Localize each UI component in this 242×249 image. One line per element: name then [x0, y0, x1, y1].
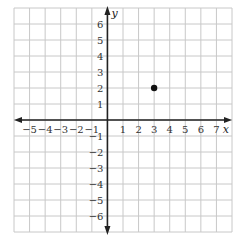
y-tick-label: −1 — [89, 131, 104, 142]
data-points — [151, 85, 157, 91]
tick-labels: −5−4−3−2−11234567654321−1−2−3−4−5−6xy — [22, 7, 229, 222]
y-tick-label: −6 — [89, 211, 104, 222]
x-tick-label: −4 — [38, 124, 53, 135]
y-tick-label: 3 — [97, 67, 103, 78]
x-tick-label: −2 — [69, 124, 84, 135]
x-tick-label: 2 — [135, 124, 141, 135]
y-tick-label: −4 — [89, 179, 104, 190]
x-tick-label: −3 — [53, 124, 68, 135]
y-tick-label: −2 — [89, 147, 104, 158]
x-axis-label: x — [223, 123, 230, 136]
y-tick-label: 4 — [97, 51, 103, 62]
y-tick-label: 2 — [97, 83, 103, 94]
y-tick-label: 1 — [97, 99, 103, 110]
y-axis-label: y — [110, 7, 118, 20]
x-axis-arrow-left-icon — [14, 117, 22, 123]
x-tick-label: −5 — [22, 124, 37, 135]
x-tick-label: 3 — [151, 124, 157, 135]
x-tick-label: 4 — [167, 124, 173, 135]
data-point — [151, 85, 157, 91]
x-tick-label: 1 — [120, 124, 126, 135]
coordinate-plane: −5−4−3−2−11234567654321−1−2−3−4−5−6xy — [0, 0, 242, 249]
y-tick-label: −3 — [89, 163, 104, 174]
y-axis-arrow-up-icon — [104, 6, 110, 15]
y-tick-label: 6 — [97, 19, 103, 30]
y-tick-label: 5 — [97, 35, 103, 46]
y-tick-label: −5 — [89, 195, 104, 206]
y-axis-arrow-down-icon — [104, 226, 110, 235]
x-tick-label: 5 — [182, 124, 188, 135]
x-tick-label: 6 — [198, 124, 204, 135]
x-tick-label: 7 — [213, 124, 219, 135]
